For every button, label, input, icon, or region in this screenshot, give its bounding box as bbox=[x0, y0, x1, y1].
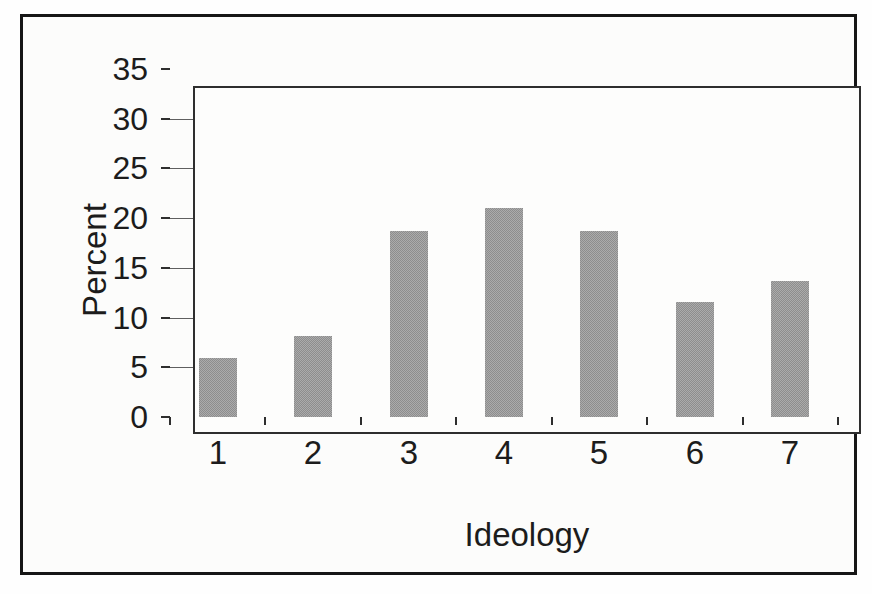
x-tick-label-4: 4 bbox=[474, 436, 534, 469]
bar-3 bbox=[390, 231, 428, 417]
y-tick-mark-20 bbox=[161, 217, 170, 219]
y-tick-label-15: 15 bbox=[78, 252, 148, 284]
x-tick-mark-7 bbox=[837, 417, 839, 425]
x-tick-mark-6 bbox=[742, 417, 744, 425]
x-axis-title: Ideology bbox=[193, 517, 861, 553]
y-tick-mark-30 bbox=[161, 118, 170, 120]
x-tick-mark-3 bbox=[455, 417, 457, 425]
y-tick-label-30: 30 bbox=[78, 103, 148, 135]
bar-1 bbox=[199, 358, 237, 417]
y-tick-mark-15 bbox=[161, 267, 170, 269]
x-tick-mark-4 bbox=[551, 417, 553, 425]
y-tick-mark-10 bbox=[161, 317, 170, 319]
y-tick-label-35: 35 bbox=[78, 53, 148, 85]
bar-6 bbox=[676, 302, 714, 417]
x-tick-mark-1 bbox=[264, 417, 266, 425]
x-tick-mark-5 bbox=[646, 417, 648, 425]
y-tick-label-25: 25 bbox=[78, 152, 148, 184]
y-tick-mark-25 bbox=[161, 167, 170, 169]
x-tick-label-1: 1 bbox=[188, 436, 248, 469]
bar-7 bbox=[771, 281, 809, 417]
y-tick-mark-5 bbox=[161, 366, 170, 368]
x-tick-label-6: 6 bbox=[665, 436, 725, 469]
x-tick-label-3: 3 bbox=[379, 436, 439, 469]
x-tick-label-7: 7 bbox=[760, 436, 820, 469]
x-tick-mark-0 bbox=[169, 417, 171, 425]
y-tick-label-10: 10 bbox=[78, 302, 148, 334]
y-tick-label-5: 5 bbox=[78, 351, 148, 383]
x-tick-mark-2 bbox=[360, 417, 362, 425]
scanned-bar-chart-page: Percent Ideology 051015202530351234567 bbox=[0, 0, 872, 594]
figure-frame: Percent Ideology 051015202530351234567 bbox=[20, 14, 857, 575]
y-tick-mark-35 bbox=[161, 68, 170, 70]
x-tick-label-2: 2 bbox=[283, 436, 343, 469]
x-tick-label-5: 5 bbox=[569, 436, 629, 469]
y-tick-label-0: 0 bbox=[78, 401, 148, 433]
y-tick-label-20: 20 bbox=[78, 202, 148, 234]
bar-2 bbox=[294, 336, 332, 417]
bar-4 bbox=[485, 208, 523, 417]
bar-5 bbox=[580, 231, 618, 417]
